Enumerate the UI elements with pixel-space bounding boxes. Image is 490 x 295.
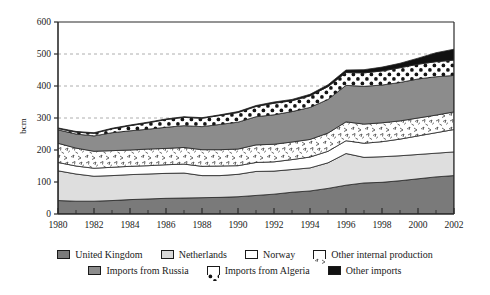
legend-swatch-imports-from-algeria — [207, 266, 220, 275]
y-tick-label: 0 — [46, 209, 51, 219]
x-tick-label: 1980 — [49, 220, 68, 230]
legend-row-1: United Kingdom Netherlands Norway Other … — [0, 246, 490, 262]
y-tick-label: 100 — [37, 177, 52, 187]
x-tick-label: 1984 — [121, 220, 140, 230]
legend-item-other-internal-production[interactable]: Other internal production — [313, 249, 433, 260]
y-tick-label: 600 — [37, 17, 52, 27]
y-tick-label: 400 — [37, 81, 52, 91]
chart-legend: United Kingdom Netherlands Norway Other … — [0, 246, 490, 278]
legend-item-united-kingdom[interactable]: United Kingdom — [57, 249, 143, 260]
legend-swatch-other-imports — [328, 266, 341, 275]
y-axis-title: bcm — [18, 118, 28, 134]
x-tick-label: 1988 — [193, 220, 212, 230]
stipple-pattern-icon — [314, 258, 325, 265]
x-tick-label: 1992 — [265, 220, 284, 230]
legend-label-other-imports: Other imports — [346, 265, 402, 276]
legend-label-imports-from-russia: Imports from Russia — [106, 265, 188, 276]
polka-dot-pattern-icon — [208, 274, 219, 281]
x-tick-label: 2000 — [409, 220, 428, 230]
legend-label-united-kingdom: United Kingdom — [75, 249, 143, 260]
legend-item-netherlands[interactable]: Netherlands — [161, 249, 227, 260]
x-tick-label: 1998 — [373, 220, 392, 230]
x-tick-label: 1996 — [337, 220, 356, 230]
legend-item-imports-from-algeria[interactable]: Imports from Algeria — [207, 265, 310, 276]
legend-swatch-other-internal-production — [313, 250, 326, 259]
legend-label-imports-from-algeria: Imports from Algeria — [225, 265, 310, 276]
x-tick-label: 1990 — [229, 220, 248, 230]
x-tick-label: 1982 — [85, 220, 104, 230]
x-tick-label: 2002 — [445, 220, 464, 230]
y-tick-label: 300 — [37, 113, 52, 123]
x-tick-label: 1994 — [301, 220, 320, 230]
legend-label-norway: Norway — [263, 249, 295, 260]
legend-swatch-netherlands — [161, 250, 174, 259]
legend-item-imports-from-russia[interactable]: Imports from Russia — [88, 265, 188, 276]
legend-swatch-imports-from-russia — [88, 266, 101, 275]
y-tick-label: 200 — [37, 145, 52, 155]
legend-label-other-internal-production: Other internal production — [331, 249, 433, 260]
y-tick-label: 500 — [37, 49, 52, 59]
figure-container: 0100200300400500600 19801982198419861988… — [0, 0, 490, 295]
legend-row-2: Imports from Russia Imports from Algeria… — [0, 262, 490, 278]
legend-swatch-united-kingdom — [57, 250, 70, 259]
legend-item-other-imports[interactable]: Other imports — [328, 265, 402, 276]
legend-swatch-norway — [245, 250, 258, 259]
legend-item-norway[interactable]: Norway — [245, 249, 295, 260]
legend-label-netherlands: Netherlands — [179, 249, 227, 260]
x-tick-label: 1986 — [157, 220, 176, 230]
